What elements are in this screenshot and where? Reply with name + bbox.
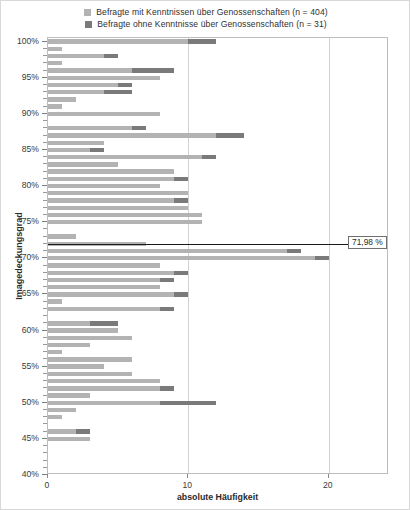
y-tick-label: 40% — [22, 469, 39, 479]
bar-segment-mit — [48, 141, 104, 145]
reference-line-7198 — [48, 244, 387, 245]
bar-row — [48, 386, 174, 390]
bar-row — [48, 97, 76, 101]
bar-row — [48, 234, 76, 238]
legend-item-ohne: Befragte ohne Kenntnisse über Genossensc… — [85, 19, 327, 29]
y-tick-label: 50% — [22, 397, 39, 407]
legend-item-mit: Befragte mit Kenntnissen über Genossensc… — [84, 7, 328, 17]
bar-row — [48, 299, 62, 303]
bar-segment-mit — [48, 292, 174, 296]
bar-segment-ohne — [76, 429, 90, 433]
bar-row — [48, 343, 90, 347]
bar-row — [48, 155, 216, 159]
bar-row — [48, 271, 188, 275]
bar-segment-ohne — [90, 321, 118, 325]
bar-segment-mit — [48, 76, 160, 80]
bar-row — [48, 126, 146, 130]
plot-area — [47, 37, 388, 474]
y-tick-label: 55% — [22, 361, 39, 371]
bar-row — [48, 379, 160, 383]
bar-segment-ohne — [188, 39, 216, 43]
bar-segment-mit — [48, 386, 160, 390]
bar-segment-mit — [48, 299, 62, 303]
bar-row — [48, 249, 301, 253]
bar-segment-mit — [48, 126, 132, 130]
bar-row — [48, 393, 90, 397]
bar-segment-mit — [48, 285, 160, 289]
bar-segment-mit — [48, 379, 160, 383]
y-tick-label: 70% — [22, 252, 39, 262]
bar-segment-mit — [48, 97, 76, 101]
bar-row — [48, 169, 174, 173]
bar-segment-mit — [48, 307, 160, 311]
bar-segment-mit — [48, 278, 160, 282]
bar-row — [48, 191, 188, 195]
bar-segment-ohne — [174, 292, 188, 296]
bar-segment-mit — [48, 162, 118, 166]
legend-swatch-mit — [84, 9, 91, 16]
bar-row — [48, 263, 160, 267]
bar-row — [48, 401, 216, 405]
bar-row — [48, 90, 132, 94]
bar-segment-ohne — [132, 126, 146, 130]
bar-row — [48, 220, 202, 224]
bar-row — [48, 184, 160, 188]
y-tick-label: 65% — [22, 288, 39, 298]
bar-segment-ohne — [315, 256, 329, 260]
bar-row — [48, 76, 160, 80]
y-tick-label: 75% — [22, 216, 39, 226]
bar-segment-mit — [48, 68, 132, 72]
bar-row — [48, 61, 62, 65]
bar-segment-mit — [48, 256, 315, 260]
bar-row — [48, 372, 132, 376]
bar-segment-mit — [48, 177, 174, 181]
bar-segment-ohne — [118, 83, 132, 87]
bar-segment-mit — [48, 206, 188, 210]
bar-segment-mit — [48, 437, 90, 441]
bar-segment-mit — [48, 364, 104, 368]
bar-segment-mit — [48, 133, 216, 137]
bar-segment-ohne — [160, 401, 216, 405]
bar-row — [48, 408, 76, 412]
bar-segment-mit — [48, 321, 90, 325]
chart-legend: Befragte mit Kenntnissen über Genossensc… — [1, 7, 410, 29]
bar-row — [48, 278, 174, 282]
bar-segment-mit — [48, 328, 118, 332]
bar-segment-ohne — [216, 133, 244, 137]
bar-segment-mit — [48, 198, 174, 202]
bar-segment-ohne — [160, 307, 174, 311]
x-tick — [47, 474, 48, 478]
bar-row — [48, 256, 329, 260]
y-axis: 40%45%50%55%60%65%70%75%80%85%90%95%100% — [1, 37, 47, 474]
y-tick-label: 90% — [22, 108, 39, 118]
bar-row — [48, 133, 244, 137]
bar-segment-mit — [48, 234, 76, 238]
bar-row — [48, 112, 160, 116]
y-tick-label: 100% — [17, 36, 39, 46]
bar-row — [48, 104, 62, 108]
bar-row — [48, 336, 132, 340]
bar-segment-mit — [48, 112, 160, 116]
bar-row — [48, 141, 104, 145]
y-tick-label: 80% — [22, 180, 39, 190]
y-tick-label: 60% — [22, 325, 39, 335]
bar-segment-mit — [48, 372, 132, 376]
bar-segment-ohne — [174, 177, 188, 181]
bar-segment-mit — [48, 415, 62, 419]
bar-segment-ohne — [287, 249, 301, 253]
bar-segment-ohne — [104, 54, 118, 58]
bar-segment-mit — [48, 83, 118, 87]
x-tick — [187, 474, 188, 478]
bar-segment-mit — [48, 429, 76, 433]
bar-segment-mit — [48, 155, 202, 159]
bar-row — [48, 47, 62, 51]
bar-segment-mit — [48, 191, 188, 195]
bar-segment-ohne — [160, 278, 174, 282]
bar-row — [48, 350, 62, 354]
bar-segment-mit — [48, 148, 90, 152]
bar-row — [48, 429, 90, 433]
bar-rows — [48, 38, 387, 473]
bar-segment-mit — [48, 104, 62, 108]
bar-row — [48, 177, 188, 181]
bar-segment-mit — [48, 271, 174, 275]
